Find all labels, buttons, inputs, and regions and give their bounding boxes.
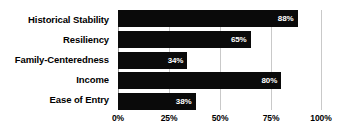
bar-historical-stability: 88%	[118, 10, 298, 27]
category-label: Income	[0, 70, 114, 90]
bar-chart: Historical Stability Resiliency Family-C…	[0, 0, 345, 138]
plot-area: 88% 65% 34% 80% 38%	[118, 10, 322, 110]
bar-row: 38%	[118, 93, 322, 110]
bar-ease-of-entry: 38%	[118, 93, 196, 110]
bar-row: 34%	[118, 52, 322, 69]
xtick-label: 100%	[310, 113, 331, 123]
category-label: Historical Stability	[0, 10, 114, 30]
xtick-label: 0%	[112, 113, 124, 123]
category-label: Ease of Entry	[0, 90, 114, 110]
xtick-label: 75%	[263, 113, 280, 123]
bar-resiliency: 65%	[118, 31, 251, 48]
bar-family-centeredness: 34%	[118, 52, 187, 69]
bar-value-label: 88%	[278, 14, 298, 23]
category-axis: Historical Stability Resiliency Family-C…	[0, 10, 114, 110]
bar-value-label: 34%	[168, 56, 188, 65]
bar-value-label: 80%	[261, 76, 281, 85]
xtick-label: 25%	[161, 113, 178, 123]
bar-row: 88%	[118, 10, 322, 27]
category-label: Family-Centeredness	[0, 50, 114, 70]
x-axis: 0% 25% 50% 75% 100%	[118, 113, 322, 133]
bar-income: 80%	[118, 72, 281, 89]
category-label: Resiliency	[0, 30, 114, 50]
bar-row: 80%	[118, 72, 322, 89]
bar-series: 88% 65% 34% 80% 38%	[118, 10, 322, 110]
xtick-label: 50%	[212, 113, 229, 123]
bar-value-label: 65%	[231, 35, 251, 44]
bar-row: 65%	[118, 31, 322, 48]
bar-value-label: 38%	[176, 97, 196, 106]
